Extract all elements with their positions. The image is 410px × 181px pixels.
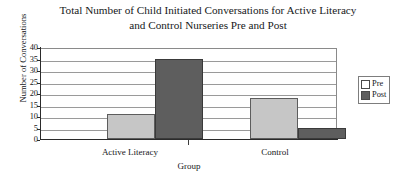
bar-active-literacy-pre [107,114,155,139]
y-tick-label-15: 15 [4,102,38,110]
x-axis-center-tick [188,140,189,145]
chart-title-line-2: and Control Nurseries Pre and Post [28,18,388,33]
plot-area [40,48,337,140]
y-tick-label-5: 5 [4,125,38,133]
y-tick-label-30: 30 [4,67,38,75]
x-axis-line [40,139,338,140]
y-tick-label-25: 25 [4,79,38,87]
x-category-label-active-literacy: Active Literacy [70,147,190,157]
legend-swatch-pre-icon [361,80,370,89]
legend-swatch-post-icon [361,91,370,100]
legend-label-post: Post [372,91,386,99]
chart-legend: Pre Post [358,76,390,104]
bar-control-pre [250,98,298,139]
legend-label-pre: Pre [372,80,383,88]
y-tick-label-40: 40 [4,44,38,52]
y-axis-ticks: 40 35 30 25 20 15 10 5 0 [0,0,38,181]
y-axis-line [40,47,41,140]
bar-active-literacy-post [155,59,203,140]
bar-control-post [298,128,346,140]
legend-item-pre[interactable]: Pre [361,79,386,90]
y-tick-label-20: 20 [4,90,38,98]
x-axis-title: Group [0,161,378,171]
y-tick-label-0: 0 [4,136,38,144]
x-category-label-control: Control [215,147,335,157]
legend-item-post[interactable]: Post [361,90,386,101]
y-tick-label-10: 10 [4,113,38,121]
chart-title: Total Number of Child Initiated Conversa… [28,3,388,33]
chart-title-line-1: Total Number of Child Initiated Conversa… [28,3,388,18]
y-tick-label-35: 35 [4,56,38,64]
